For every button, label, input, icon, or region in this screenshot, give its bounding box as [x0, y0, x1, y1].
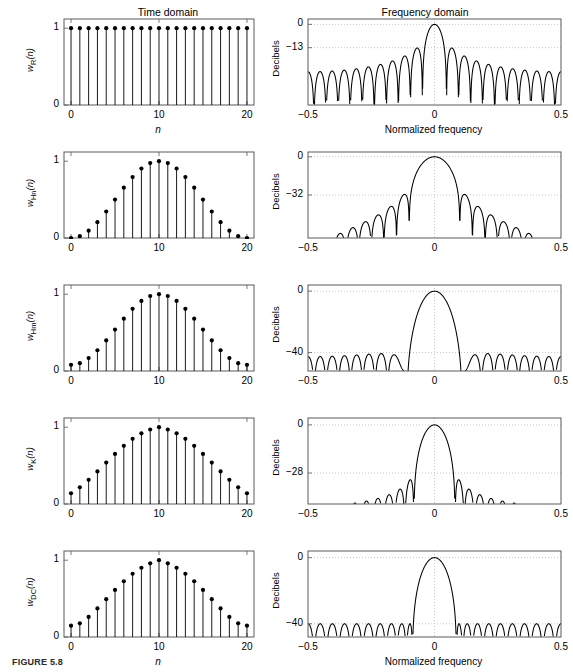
panel-frequency-kaiser — [307, 417, 562, 505]
stem-marker — [236, 361, 240, 365]
panel-frequency-hamming — [307, 284, 562, 372]
frequency-domain-plot — [307, 18, 562, 106]
panel-time-rectangular — [63, 18, 255, 106]
stem-marker — [139, 26, 143, 30]
plot-row-kaiser: 0101020wK(n)0−28−0.500.5Decibels — [0, 417, 567, 550]
stem-marker — [104, 209, 108, 213]
stem-marker — [166, 26, 170, 30]
freq-xtick-label: −0.5 — [291, 641, 325, 652]
time-domain-plot — [63, 18, 255, 106]
time-xtick-label: 0 — [56, 375, 86, 386]
freq-ylabel-decibels: Decibels — [270, 24, 281, 94]
stem-marker — [245, 624, 249, 628]
freq-xtick-label: 0.5 — [544, 242, 573, 253]
column-title-time-domain: Time domain — [78, 6, 258, 18]
freq-xtick-label: 0 — [418, 508, 452, 519]
stem-marker — [78, 621, 82, 625]
stem-marker — [113, 588, 117, 592]
freq-xtick-label: 0 — [418, 641, 452, 652]
stem-marker — [78, 485, 82, 489]
time-xtick-label: 20 — [232, 242, 262, 253]
stem-marker — [166, 561, 170, 565]
freq-ytick-label: 0 — [277, 551, 303, 562]
stem-marker — [210, 597, 214, 601]
stem-marker — [245, 363, 249, 367]
stem-marker — [87, 615, 91, 619]
stem-marker — [157, 425, 161, 429]
time-ylabel-dolph-chebyshev: wDC(n) — [24, 552, 38, 632]
time-ylabel-kaiser: wK(n) — [24, 419, 38, 499]
time-xaxis-label: n — [63, 656, 253, 667]
panel-time-kaiser — [63, 417, 255, 505]
stem-marker — [104, 461, 108, 465]
freq-ytick-label: −40 — [277, 346, 303, 357]
stem-marker — [69, 236, 73, 239]
freq-xaxis-label: Normalized frequency — [307, 656, 560, 667]
stem-marker — [95, 469, 99, 473]
stem-marker — [131, 572, 135, 576]
stem-marker — [201, 198, 205, 202]
freq-xtick-label: −0.5 — [291, 508, 325, 519]
time-xtick-label: 0 — [56, 641, 86, 652]
stem-marker — [104, 338, 108, 342]
stem-marker — [210, 26, 214, 30]
stem-marker — [210, 209, 214, 213]
freq-ylabel-decibels: Decibels — [270, 423, 281, 493]
stem-marker — [69, 624, 73, 628]
stem-marker — [87, 356, 91, 360]
stem-marker — [174, 26, 178, 30]
time-ytick-label: 1 — [37, 21, 59, 32]
freq-ytick-label: −32 — [277, 188, 303, 199]
stem-marker — [201, 452, 205, 456]
stem-marker — [245, 491, 249, 495]
stem-marker — [87, 26, 91, 30]
stem-marker — [95, 220, 99, 224]
freq-ytick-label: 0 — [277, 418, 303, 429]
stem-marker — [69, 363, 73, 367]
stem-marker — [218, 26, 222, 30]
freq-xtick-label: 0 — [418, 242, 452, 253]
time-xtick-label: 0 — [56, 109, 86, 120]
time-ylabel-rectangular: wR(n) — [24, 20, 38, 100]
stem-marker — [236, 621, 240, 625]
time-xtick-label: 20 — [232, 508, 262, 519]
freq-xtick-label: 0.5 — [544, 641, 573, 652]
stem-marker — [183, 307, 187, 311]
time-domain-plot — [63, 550, 255, 638]
stem-marker — [113, 26, 117, 30]
figure-caption: FIGURE 5.8 — [12, 657, 63, 667]
time-ytick-label: 1 — [37, 287, 59, 298]
plot-row-dolph-chebyshev: 0101020wDC(n)0−40−0.500.5DecibelsnNormal… — [0, 550, 567, 672]
stem-marker — [227, 26, 231, 30]
panel-frequency-rectangular — [307, 18, 562, 106]
time-ytick-label: 1 — [37, 420, 59, 431]
freq-xtick-label: −0.5 — [291, 375, 325, 386]
time-ytick-label: 1 — [37, 154, 59, 165]
freq-xtick-label: 0 — [418, 375, 452, 386]
stem-marker — [192, 26, 196, 30]
stem-marker — [245, 26, 249, 30]
stem-marker — [148, 294, 152, 298]
freq-ylabel-decibels: Decibels — [270, 290, 281, 360]
stem-marker — [236, 234, 240, 238]
time-ylabel-hanning: wHn(n) — [24, 153, 38, 233]
time-domain-plot — [63, 417, 255, 505]
stem-marker — [183, 437, 187, 441]
time-xtick-label: 10 — [144, 508, 174, 519]
plot-row-hanning: 0101020wHn(n)0−32−0.500.5Decibels — [0, 151, 567, 284]
stem-marker — [113, 327, 117, 331]
stem-marker — [69, 491, 73, 495]
stem-marker — [78, 26, 82, 30]
time-xtick-label: 20 — [232, 109, 262, 120]
stem-marker — [174, 299, 178, 303]
freq-ylabel-decibels: Decibels — [270, 556, 281, 626]
stem-marker — [122, 444, 126, 448]
freq-xtick-label: 0.5 — [544, 508, 573, 519]
stem-marker — [201, 588, 205, 592]
stem-marker — [95, 348, 99, 352]
stem-marker — [95, 26, 99, 30]
freq-ytick-label: 0 — [277, 17, 303, 28]
stem-marker — [139, 566, 143, 570]
stem-marker — [166, 427, 170, 431]
stem-marker — [113, 198, 117, 202]
